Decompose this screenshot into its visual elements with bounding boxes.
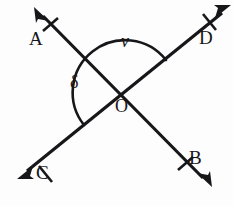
point-label-C: C <box>36 163 49 182</box>
arrowhead-D-icon <box>214 5 231 18</box>
angle-label-nu: ν <box>121 32 129 50</box>
point-label-O: O <box>115 97 128 115</box>
point-label-A: A <box>29 29 43 48</box>
angle-label-delta: δ <box>70 73 78 91</box>
arrowhead-C-icon <box>17 166 34 179</box>
geometry-figure: A D C B O ν δ <box>0 0 233 206</box>
point-label-B: B <box>189 148 202 167</box>
point-label-D: D <box>199 28 213 47</box>
